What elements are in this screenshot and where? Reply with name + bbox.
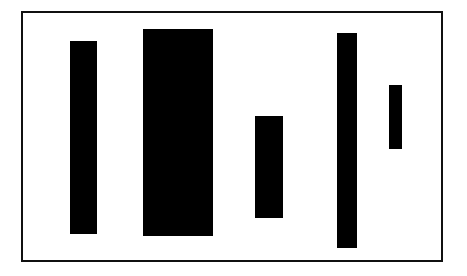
bar-5 <box>389 85 402 149</box>
figure-canvas <box>0 0 467 276</box>
bar-1 <box>70 41 97 234</box>
bar-2 <box>143 29 213 236</box>
bar-3 <box>255 116 283 218</box>
bar-4 <box>337 33 357 248</box>
plot-frame <box>21 11 443 262</box>
